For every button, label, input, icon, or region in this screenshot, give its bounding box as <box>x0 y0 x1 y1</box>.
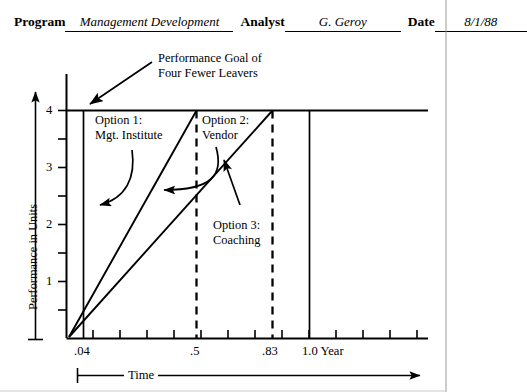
option-1-callout-arrow <box>100 150 133 205</box>
option-3-annotation: Option 3: Coaching <box>213 218 261 247</box>
option-1-line-1: Option 1: <box>95 113 162 128</box>
y-tick-label-4: 4 <box>46 103 52 118</box>
option-2-line-1: Option 2: <box>202 113 249 128</box>
date-field[interactable]: 8/1/88 <box>435 14 527 32</box>
series-line-option-1 <box>69 111 197 338</box>
x-tick-label-083: .83 <box>262 344 278 359</box>
x-tick-label-004: .04 <box>74 344 90 359</box>
y-axis-ticks <box>58 111 66 311</box>
x-axis-ticks <box>93 330 417 338</box>
x-axis-title: Time <box>124 368 158 383</box>
option-1-annotation: Option 1: Mgt. Institute <box>95 113 162 142</box>
option-3-line-1: Option 3: <box>213 218 261 233</box>
option-3-line-2: Coaching <box>213 233 261 248</box>
option-3-callout-arrow <box>224 160 240 205</box>
goal-annotation-line-1: Performance Goal of <box>158 51 262 66</box>
y-tick-label-2: 2 <box>46 217 52 232</box>
y-tick-label-3: 3 <box>46 160 52 175</box>
goal-annotation-line-2: Four Fewer Leavers <box>158 66 262 81</box>
goal-annotation: Performance Goal of Four Fewer Leavers <box>158 51 262 80</box>
goal-callout-arrow <box>90 62 152 104</box>
x-tick-label-10: 1.0 Year <box>302 344 344 359</box>
option-1-line-2: Mgt. Institute <box>95 128 162 143</box>
y-axis-title: Performance in Units <box>26 204 41 310</box>
option-2-annotation: Option 2: Vendor <box>202 113 249 142</box>
x-tick-label-05: .5 <box>190 344 199 359</box>
option-2-line-2: Vendor <box>202 128 249 143</box>
y-tick-label-1: 1 <box>46 274 52 289</box>
